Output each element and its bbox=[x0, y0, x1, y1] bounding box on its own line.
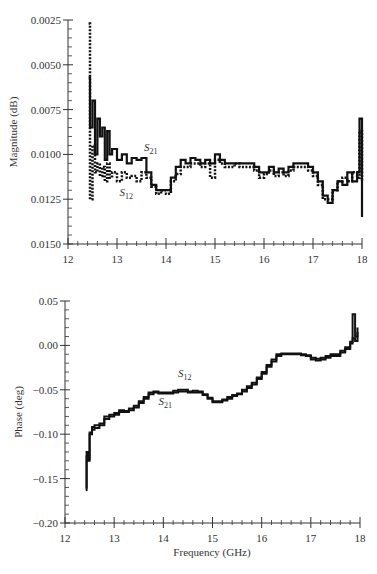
x-tick-label: 15 bbox=[210, 253, 222, 265]
magnitude-axes: 0.00250.00500.00750.01000.01250.01501213… bbox=[31, 14, 368, 265]
series-annotation: S12 bbox=[119, 186, 133, 201]
series-s12 bbox=[89, 24, 362, 200]
x-tick-label: 17 bbox=[308, 253, 320, 265]
phase-axes: 0.050.00−0.05−0.10−0.15−0.20121314151617… bbox=[33, 295, 366, 544]
y-tick-label: 0.0075 bbox=[31, 104, 62, 116]
x-tick-label: 13 bbox=[112, 253, 124, 265]
phase-annotations: S12S21 bbox=[158, 367, 191, 410]
x-tick-label: 12 bbox=[60, 532, 71, 544]
phase-series bbox=[86, 314, 358, 490]
series-annotation: S21 bbox=[144, 141, 158, 156]
y-tick-label: 0.00 bbox=[39, 339, 59, 351]
y-tick-label: 0.0025 bbox=[31, 14, 62, 26]
y-tick-label: −0.20 bbox=[33, 517, 59, 529]
phase-chart: 0.050.00−0.05−0.10−0.15−0.20121314151617… bbox=[12, 295, 366, 559]
phase-x-axis-label: Frequency (GHz) bbox=[173, 546, 251, 559]
y-tick-label: 0.05 bbox=[39, 295, 59, 307]
y-tick-label: −0.15 bbox=[33, 473, 59, 485]
x-tick-label: 15 bbox=[207, 532, 219, 544]
y-tick-label: 0.0150 bbox=[31, 238, 62, 250]
x-tick-label: 16 bbox=[256, 532, 268, 544]
y-tick-label: 0.0125 bbox=[31, 193, 62, 205]
phase-y-axis-label: Phase (deg) bbox=[12, 386, 25, 438]
y-tick-label: 0.0100 bbox=[31, 148, 62, 160]
x-tick-label: 14 bbox=[158, 532, 170, 544]
y-tick-label: −0.10 bbox=[33, 428, 59, 440]
x-tick-label: 16 bbox=[259, 253, 271, 265]
magnitude-chart: 0.00250.00500.00750.01000.01250.01501213… bbox=[7, 14, 368, 265]
x-tick-label: 17 bbox=[305, 532, 317, 544]
magnitude-series bbox=[89, 24, 362, 218]
y-tick-label: −0.05 bbox=[33, 384, 59, 396]
series-s12 bbox=[86, 314, 358, 487]
x-tick-label: 12 bbox=[63, 253, 74, 265]
magnitude-annotations: S21S12 bbox=[119, 141, 157, 201]
y-tick-label: 0.0050 bbox=[31, 59, 62, 71]
series-annotation: S12 bbox=[178, 367, 192, 382]
series-annotation: S21 bbox=[158, 395, 172, 410]
x-tick-label: 18 bbox=[355, 532, 367, 544]
x-tick-label: 13 bbox=[109, 532, 121, 544]
x-tick-label: 18 bbox=[357, 253, 369, 265]
figure: 0.00250.00500.00750.01000.01250.01501213… bbox=[0, 0, 377, 574]
x-tick-label: 14 bbox=[161, 253, 173, 265]
magnitude-y-axis-label: Magnitude (dB) bbox=[7, 96, 20, 167]
